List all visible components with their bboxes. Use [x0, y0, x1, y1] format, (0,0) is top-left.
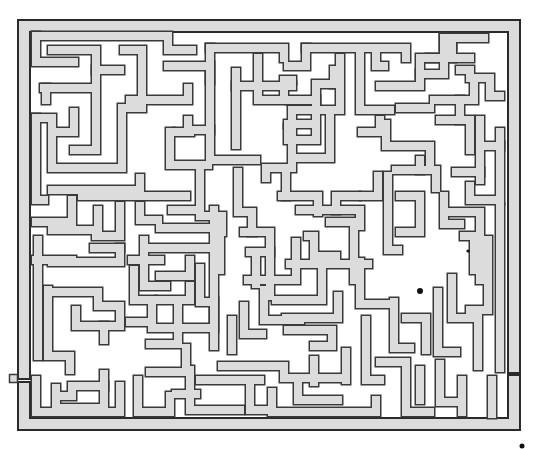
- maze-walls: [36, 36, 500, 414]
- entry-marker: [10, 375, 18, 383]
- maze-board: [0, 0, 534, 449]
- dot-marker: [417, 288, 423, 294]
- dot-marker: [520, 444, 525, 449]
- dot-marker: [466, 249, 469, 252]
